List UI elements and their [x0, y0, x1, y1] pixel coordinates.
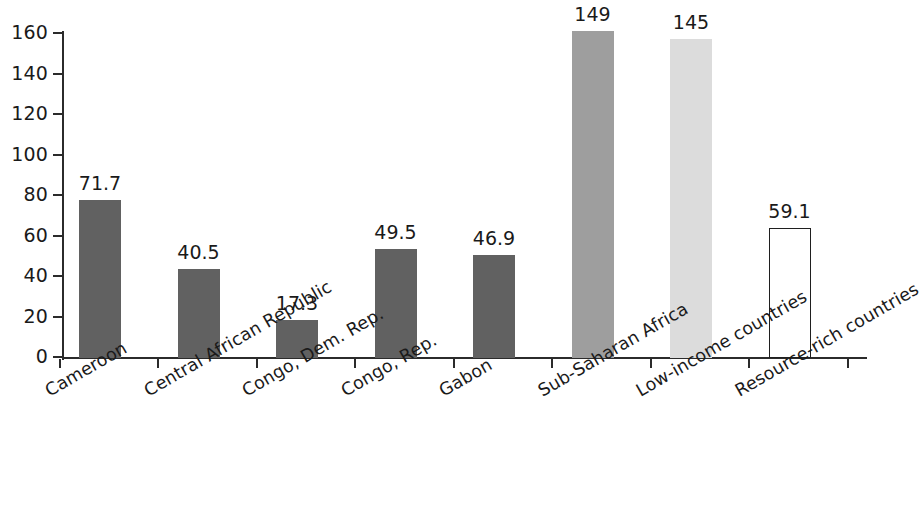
y-axis-tick [53, 275, 62, 277]
y-axis-tick-label: 100 [0, 145, 48, 164]
y-axis-tick [53, 194, 62, 196]
y-axis-tick-label-text: 160 [2, 23, 48, 42]
bar-value-label: 40.5 [159, 242, 239, 262]
bar-value-label: 59.1 [750, 201, 830, 221]
y-axis-tick [53, 73, 62, 75]
y-axis-tick-label-text: 100 [2, 145, 48, 164]
y-axis-tick [53, 154, 62, 156]
y-axis-tick-label-text: 140 [2, 64, 48, 83]
y-axis-tick-label: 60 [0, 226, 48, 245]
y-axis-tick-label: 140 [0, 64, 48, 83]
y-axis-tick-label: 0 [0, 347, 48, 366]
x-axis-tick [59, 359, 61, 368]
y-axis-tick-label: 120 [0, 104, 48, 123]
y-axis-tick-label-text: 40 [2, 266, 48, 285]
bar-value-label: 149 [553, 4, 633, 24]
y-axis-tick [53, 316, 62, 318]
x-axis-tick [551, 359, 553, 368]
y-axis-tick [53, 356, 62, 358]
y-axis-tick-label-text: 60 [2, 226, 48, 245]
x-axis-tick [354, 359, 356, 368]
x-axis-tick [256, 359, 258, 368]
x-axis-tick [748, 359, 750, 368]
y-axis-tick-label: 20 [0, 307, 48, 326]
x-axis-tick [847, 359, 849, 368]
y-axis-tick-label: 80 [0, 185, 48, 204]
x-axis-tick [157, 359, 159, 368]
y-axis-tick-label-text: 120 [2, 104, 48, 123]
y-axis-tick-label: 40 [0, 266, 48, 285]
x-axis-tick [650, 359, 652, 368]
y-axis-tick-label-text: 80 [2, 185, 48, 204]
bar-value-label: 46.9 [454, 228, 534, 248]
x-axis-tick [453, 359, 455, 368]
y-axis-tick-label: 160 [0, 23, 48, 42]
bar[interactable] [79, 200, 121, 358]
bar-value-label: 71.7 [60, 173, 140, 193]
x-axis-category-label: Gabon [436, 355, 495, 400]
bar-value-label: 145 [651, 12, 731, 32]
y-axis-tick [53, 235, 62, 237]
plot-area [62, 33, 867, 358]
bar-value-label: 49.5 [356, 222, 436, 242]
bar[interactable] [572, 31, 614, 358]
y-axis-tick-label-text: 20 [2, 307, 48, 326]
bar[interactable] [473, 255, 515, 358]
y-axis-tick-label-text: 0 [2, 347, 48, 366]
y-axis-tick [53, 32, 62, 34]
y-axis-tick [53, 113, 62, 115]
